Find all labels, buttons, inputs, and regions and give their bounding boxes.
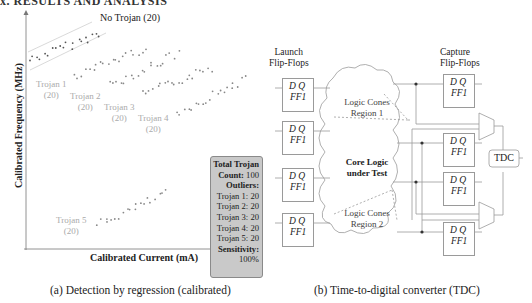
core-logic-label: Core Logicunder Test (337, 157, 397, 179)
launch-flip-flop: D QFF1 (282, 213, 314, 247)
launch-flip-flop: D QFF1 (282, 168, 314, 202)
capture-ff-label: CaptureFlip-Flops (440, 47, 480, 69)
region-2-label: Logic ConesRegion 2 (337, 208, 397, 230)
launch-flip-flop: D QFF1 (282, 121, 314, 155)
launch-ff-label: LaunchFlip-Flops (269, 47, 309, 69)
capture-flip-flop: D QFF1 (443, 222, 475, 256)
tdc-block: TDC (489, 152, 519, 163)
caption-b: (b) Time-to-digital converter (TDC) (314, 284, 480, 296)
capture-flip-flop: D QFF1 (443, 172, 475, 206)
launch-flip-flop: D QFF1 (282, 78, 314, 112)
capture-flip-flop: D QFF1 (443, 133, 475, 167)
region-1-label: Logic ConesRegion 1 (337, 97, 397, 119)
capture-flip-flop: D QFF1 (443, 74, 475, 108)
